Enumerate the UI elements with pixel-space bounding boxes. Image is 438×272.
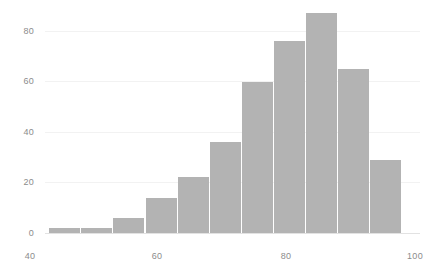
histogram-bar: [113, 218, 144, 233]
histogram-chart: 80 60 40 20 0 40 60 80 100: [0, 0, 438, 272]
histogram-bar: [370, 160, 401, 233]
histogram-bar: [306, 13, 337, 233]
plot-area: 80 60 40 20 0 40 60 80 100: [0, 0, 438, 272]
histogram-bar: [274, 41, 305, 233]
y-tick-label-0: 0: [10, 229, 34, 238]
x-tick-label-100: 100: [403, 252, 427, 261]
histogram-bar: [210, 142, 241, 233]
y-tick-label-60: 60: [10, 77, 34, 86]
histogram-bar: [178, 177, 209, 233]
y-tick-label-40: 40: [10, 128, 34, 137]
x-tick-label-40: 40: [18, 252, 42, 261]
histogram-bar: [242, 82, 273, 234]
x-axis-baseline: [45, 233, 420, 234]
histogram-bar: [146, 198, 177, 233]
x-tick-label-60: 60: [145, 252, 169, 261]
gridline-80: [45, 31, 420, 32]
x-tick-label-80: 80: [274, 252, 298, 261]
y-tick-label-20: 20: [10, 178, 34, 187]
histogram-bar: [338, 69, 369, 233]
y-tick-label-80: 80: [10, 27, 34, 36]
